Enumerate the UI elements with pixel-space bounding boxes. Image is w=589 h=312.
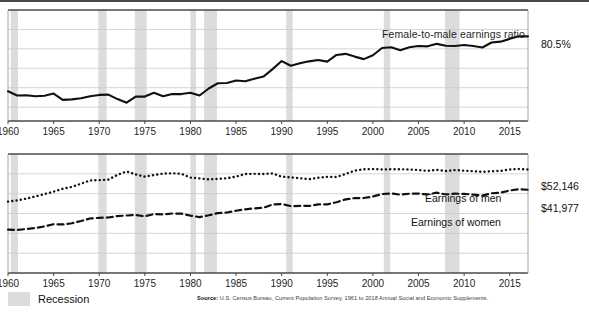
ratio-chart-svg [0, 8, 535, 124]
xtick-bottom-1960: 1960 [0, 278, 26, 289]
xtick-bottom-1995: 1995 [309, 278, 345, 289]
chart-panel-earnings [0, 152, 535, 276]
xtick-bottom-2015: 2015 [492, 278, 528, 289]
xtick-top-2010: 2010 [446, 126, 482, 137]
earnings-chart-svg [0, 152, 535, 276]
xtick-top-2000: 2000 [355, 126, 391, 137]
figure-root: Female-to-male earnings ratio 80.5% 1960… [0, 0, 589, 312]
xtick-top-2005: 2005 [401, 126, 437, 137]
xtick-bottom-1970: 1970 [81, 278, 117, 289]
xtick-bottom-1980: 1980 [172, 278, 208, 289]
xtick-top-2015: 2015 [492, 126, 528, 137]
top-divider-rule [0, 0, 589, 2]
xtick-top-1970: 1970 [81, 126, 117, 137]
xtick-top-1965: 1965 [36, 126, 72, 137]
recession-legend-label: Recession [38, 293, 89, 305]
xtick-top-1980: 1980 [172, 126, 208, 137]
xtick-bottom-1975: 1975 [127, 278, 163, 289]
xtick-top-1995: 1995 [309, 126, 345, 137]
xtick-top-1990: 1990 [264, 126, 300, 137]
xtick-top-1985: 1985 [218, 126, 254, 137]
chart-panel-ratio [0, 8, 535, 124]
xtick-top-1975: 1975 [127, 126, 163, 137]
xtick-bottom-2000: 2000 [355, 278, 391, 289]
men-end-value-label: $52,146 [541, 180, 579, 192]
xtick-bottom-1965: 1965 [36, 278, 72, 289]
series-label-women: Earnings of women [411, 216, 501, 228]
source-note-prefix: Source: [197, 295, 218, 301]
xtick-bottom-2005: 2005 [401, 278, 437, 289]
source-note: Source: U.S. Census Bureau, Current Popu… [197, 295, 488, 301]
xtick-bottom-1990: 1990 [264, 278, 300, 289]
xtick-bottom-1985: 1985 [218, 278, 254, 289]
xtick-top-1960: 1960 [0, 126, 26, 137]
source-note-text: U.S. Census Bureau, Current Population S… [218, 295, 488, 301]
series-label-men: Earnings of men [425, 192, 501, 204]
ratio-series-annotation: Female-to-male earnings ratio [382, 28, 525, 40]
ratio-end-value-label: 80.5% [541, 38, 571, 50]
women-end-value-label: $41,977 [541, 202, 579, 214]
xtick-bottom-2010: 2010 [446, 278, 482, 289]
recession-legend-swatch [8, 292, 30, 306]
